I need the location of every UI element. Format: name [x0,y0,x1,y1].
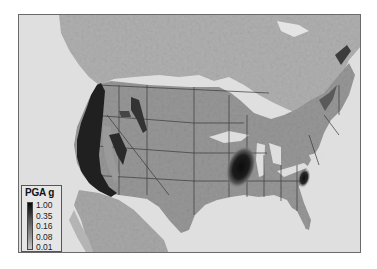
idaho-hazard [119,111,131,117]
legend-label: 0.35 [36,212,53,221]
legend: PGA g 1.00 0.35 0.16 0.08 0.01 [21,185,62,252]
legend-label: 0.16 [36,222,53,231]
legend-label: 0.08 [36,233,53,242]
legend-color-bar [27,202,33,250]
legend-label: 0.01 [36,243,53,252]
map-graphic [19,15,361,253]
legend-label: 1.00 [36,201,53,210]
hazard-map [18,14,361,253]
legend-title: PGA g [25,187,54,198]
